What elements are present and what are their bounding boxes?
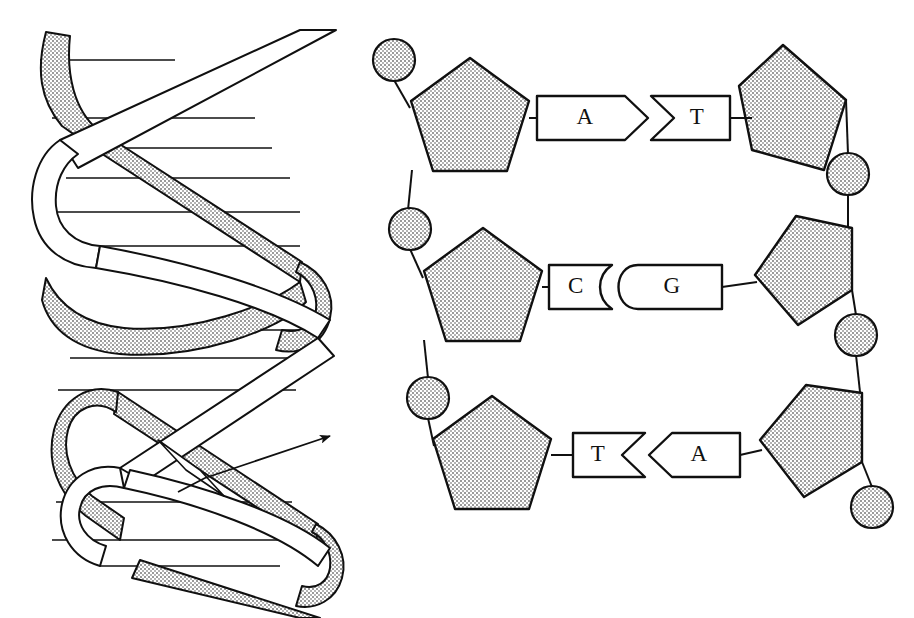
base-label-C: C <box>568 273 584 298</box>
phosphate-group <box>373 39 415 81</box>
base-label-T: T <box>591 441 606 466</box>
phosphate-group <box>407 377 449 419</box>
phosphate-group <box>389 208 431 250</box>
base-label-A: A <box>690 441 707 466</box>
base-label-G: G <box>663 273 680 298</box>
phosphate-group <box>851 486 893 528</box>
base-label-A: A <box>576 104 593 129</box>
base-label-T: T <box>690 104 705 129</box>
phosphate-group <box>827 153 869 195</box>
phosphate-group <box>835 314 877 356</box>
dna-structure-figure: A T C G T A <box>0 0 914 618</box>
